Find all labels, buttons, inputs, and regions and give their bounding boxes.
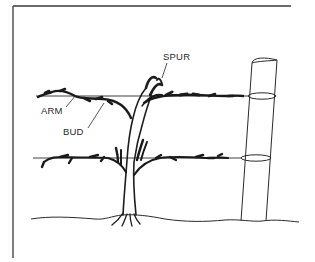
bud-leader: [88, 103, 104, 128]
diagram-canvas: SPUR ARM BUD: [0, 0, 315, 262]
label-arm: ARM: [41, 105, 63, 116]
ground-line: [31, 215, 299, 222]
label-bud: BUD: [63, 126, 84, 137]
vine-trunk: [112, 77, 162, 226]
frame-border: [13, 6, 291, 258]
arm-leader: [66, 95, 76, 107]
spur-leader: [162, 63, 167, 78]
label-spur: SPUR: [163, 51, 190, 62]
grapevine-trellis-diagram: SPUR ARM BUD: [0, 0, 315, 262]
trellis-post: [241, 58, 277, 221]
